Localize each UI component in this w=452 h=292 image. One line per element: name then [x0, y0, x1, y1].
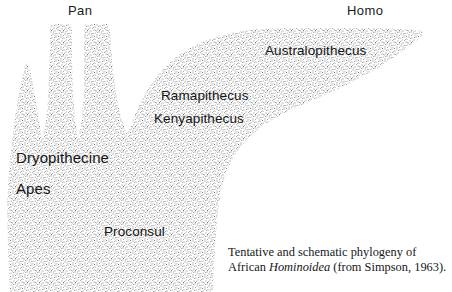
caption-line-2-suffix: (from Simpson, 1963).: [330, 260, 446, 274]
terminal-label-pan: Pan: [68, 3, 92, 18]
caption-line-1: Tentative and schematic phylogeny of: [228, 245, 450, 260]
terminal-label-homo: Homo: [347, 3, 383, 18]
figure-caption: Tentative and schematic phylogeny of Afr…: [228, 245, 450, 274]
taxon-label-kenyapithecus: Kenyapithecus: [154, 111, 244, 126]
caption-line-1-text: Tentative and schematic phylogeny of: [228, 245, 416, 259]
taxon-label-ramapithecus: Ramapithecus: [161, 88, 249, 103]
taxon-label-proconsul: Proconsul: [104, 224, 165, 239]
caption-line-2: African Hominoidea (from Simpson, 1963).: [228, 260, 450, 275]
caption-taxon-hominoidea: Hominoidea: [269, 260, 330, 274]
caption-line-2-prefix: African: [228, 260, 269, 274]
taxon-label-australopithecus: Australopithecus: [265, 43, 366, 58]
taxon-label-apes: Apes: [16, 180, 51, 197]
taxon-label-dryopithecine: Dryopithecine: [16, 149, 109, 166]
phylogeny-figure: Pan Homo Australopithecus Ramapithecus K…: [0, 0, 452, 292]
